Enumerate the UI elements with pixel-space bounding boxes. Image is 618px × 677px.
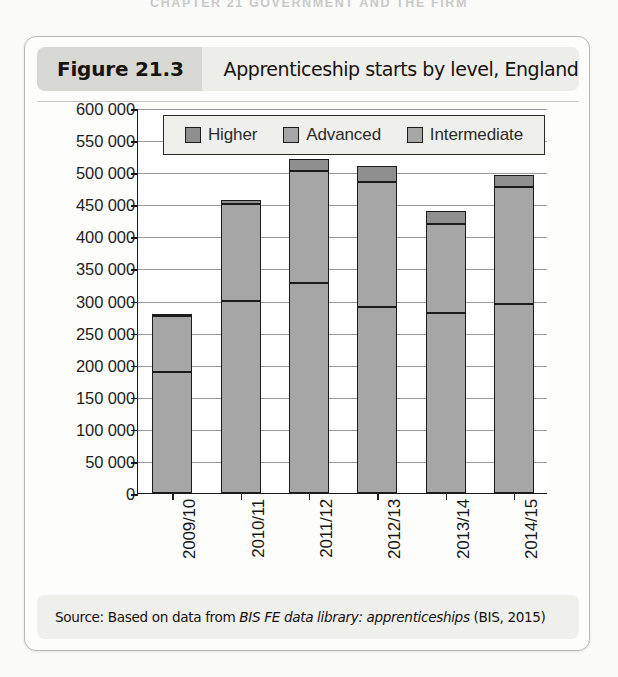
y-axis-tick bbox=[131, 237, 138, 239]
x-axis-tick-label: 2010/11 bbox=[249, 499, 269, 558]
legend-label: Higher bbox=[208, 125, 257, 145]
y-axis-tick bbox=[131, 430, 138, 432]
y-axis-tick-label: 450 000 bbox=[76, 196, 135, 215]
bar-segment-advanced bbox=[289, 171, 329, 283]
bar-segment-advanced bbox=[426, 224, 466, 314]
y-axis-tick bbox=[131, 173, 138, 175]
source-band: Source: Based on data from BIS FE data l… bbox=[37, 595, 579, 639]
bar-segment-higher bbox=[494, 175, 534, 187]
figure-caption: Apprenticeship starts by level, England bbox=[202, 47, 579, 91]
y-axis-tick bbox=[131, 302, 138, 304]
running-head: CHAPTER 21 GOVERNMENT AND THE FIRM bbox=[0, 0, 618, 8]
figure-number: Figure 21.3 bbox=[37, 47, 202, 91]
bar-segment-intermediate bbox=[426, 313, 466, 493]
y-axis-tick bbox=[131, 269, 138, 271]
y-axis-tick bbox=[131, 205, 138, 207]
bar-segment-higher bbox=[289, 159, 329, 171]
legend-label: Advanced bbox=[306, 125, 381, 145]
bar-segment-advanced bbox=[221, 204, 261, 300]
bar-2011-12 bbox=[289, 159, 329, 493]
legend-item-intermediate[interactable]: Intermediate bbox=[407, 125, 523, 145]
legend-label: Intermediate bbox=[430, 125, 523, 145]
figure-header: Figure 21.3 Apprenticeship starts by lev… bbox=[37, 47, 579, 91]
y-axis-tick-label: 50 000 bbox=[85, 452, 135, 471]
y-axis-tick-label: 500 000 bbox=[76, 164, 135, 183]
bar-segment-intermediate bbox=[357, 307, 397, 493]
y-axis-tick-label: 200 000 bbox=[76, 356, 135, 375]
bar-2009-10 bbox=[152, 314, 192, 493]
bar-2013-14 bbox=[426, 211, 466, 493]
y-axis-tick bbox=[131, 366, 138, 368]
legend-item-higher[interactable]: Higher bbox=[185, 125, 257, 145]
y-axis-tick-label: 100 000 bbox=[76, 420, 135, 439]
bar-segment-higher bbox=[357, 166, 397, 182]
bar-2012-13 bbox=[357, 166, 397, 493]
bar-segment-intermediate bbox=[494, 304, 534, 493]
bar-segment-intermediate bbox=[152, 372, 192, 493]
y-axis-tick-label: 550 000 bbox=[76, 132, 135, 151]
source-prefix: Source: Based on data from bbox=[55, 609, 239, 625]
y-axis-tick-label: 600 000 bbox=[76, 100, 135, 119]
source-note: Source: Based on data from BIS FE data l… bbox=[55, 609, 546, 625]
x-axis-tick-label: 2013/14 bbox=[454, 499, 474, 559]
y-axis-tick-label: 150 000 bbox=[76, 388, 135, 407]
y-axis-tick bbox=[131, 398, 138, 400]
bar-2010-11 bbox=[221, 200, 261, 493]
y-axis-tick bbox=[131, 141, 138, 143]
bar-series-group bbox=[138, 109, 547, 493]
y-axis-tick-label: 300 000 bbox=[76, 292, 135, 311]
y-axis-tick bbox=[131, 334, 138, 336]
y-axis-labels: 600 000550 000500 000450 000400 000350 0… bbox=[31, 109, 135, 494]
legend-item-advanced[interactable]: Advanced bbox=[283, 125, 381, 145]
legend-swatch-icon bbox=[283, 127, 299, 143]
x-axis-tick-label: 2009/10 bbox=[180, 499, 200, 559]
bar-segment-advanced bbox=[494, 187, 534, 304]
chart-area: 600 000550 000500 000450 000400 000350 0… bbox=[25, 109, 591, 594]
legend-swatch-icon bbox=[407, 127, 423, 143]
bar-2014-15 bbox=[494, 175, 534, 493]
y-axis-tick-label: 350 000 bbox=[76, 260, 135, 279]
legend-swatch-icon bbox=[185, 127, 201, 143]
y-axis-tick-label: 400 000 bbox=[76, 228, 135, 247]
plot-area bbox=[137, 109, 547, 494]
figure-panel: Figure 21.3 Apprenticeship starts by lev… bbox=[24, 36, 590, 651]
bar-segment-higher bbox=[426, 211, 466, 224]
x-axis-tick-label: 2011/12 bbox=[317, 499, 337, 558]
bar-segment-advanced bbox=[357, 182, 397, 307]
x-axis-tick-label: 2012/13 bbox=[385, 499, 405, 559]
y-axis-tick bbox=[131, 109, 138, 111]
y-axis-tick bbox=[131, 462, 138, 464]
bar-segment-advanced bbox=[152, 316, 192, 372]
x-axis-labels: 2009/102010/112011/122012/132013/142014/… bbox=[137, 495, 547, 595]
bar-segment-intermediate bbox=[289, 283, 329, 493]
source-suffix: (BIS, 2015) bbox=[470, 609, 546, 625]
bar-segment-intermediate bbox=[221, 301, 261, 494]
source-title: BIS FE data library: apprenticeships bbox=[239, 609, 469, 625]
x-axis-tick-label: 2014/15 bbox=[522, 499, 542, 559]
y-axis-tick-label: 250 000 bbox=[76, 324, 135, 343]
chart-legend: HigherAdvancedIntermediate bbox=[163, 115, 545, 155]
